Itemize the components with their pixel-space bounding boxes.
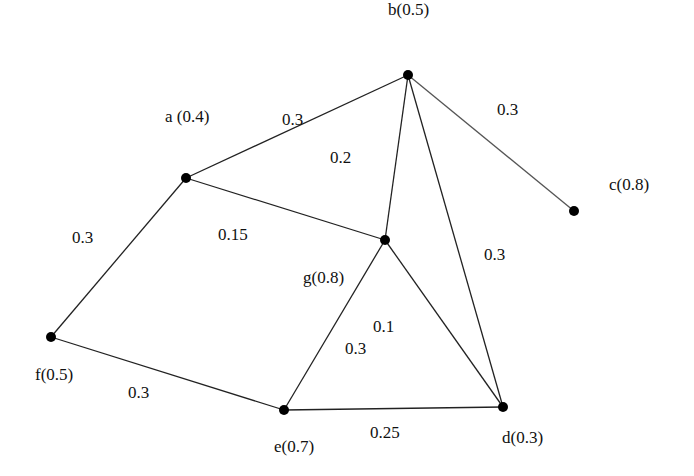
edge-weight-label: 0.2 <box>330 148 351 167</box>
edge-b-g <box>385 75 408 240</box>
edge-weight-label: 0.15 <box>218 225 248 244</box>
edge-weight-label: 0.3 <box>345 339 366 358</box>
node-label-a: a (0.4) <box>165 107 209 126</box>
edge-weight-label: 0.3 <box>72 228 93 247</box>
edge-g-e <box>284 240 385 410</box>
edge-a-f <box>51 178 186 337</box>
node-d <box>498 402 508 412</box>
node-e <box>279 405 289 415</box>
edge-f-e <box>51 337 284 410</box>
edge-weight-label: 0.3 <box>484 245 505 264</box>
node-g <box>380 235 390 245</box>
node-label-e: e(0.7) <box>274 437 314 456</box>
edge-a-g <box>186 178 385 240</box>
edge-weight-label: 0.3 <box>497 100 518 119</box>
edge-weight-label: 0.3 <box>128 383 149 402</box>
node-f <box>46 332 56 342</box>
edge-b-d <box>408 75 503 407</box>
node-label-f: f(0.5) <box>35 365 73 384</box>
node-c <box>569 206 579 216</box>
node-label-c: c(0.8) <box>609 175 649 194</box>
graph-diagram: 0.30.30.150.20.30.30.30.30.10.25 a (0.4)… <box>0 0 694 476</box>
edge-b-c <box>408 75 574 211</box>
node-label-g: g(0.8) <box>303 268 344 287</box>
node-label-d: d(0.3) <box>502 428 543 447</box>
node-b <box>403 70 413 80</box>
edge-g-d <box>385 240 503 407</box>
edge-e-d <box>284 407 503 410</box>
node-label-b: b(0.5) <box>388 0 429 19</box>
edge-weight-label: 0.3 <box>282 110 303 129</box>
node-a <box>181 173 191 183</box>
edge-weight-label: 0.1 <box>373 317 394 336</box>
edges-layer <box>51 75 574 410</box>
edge-weight-label: 0.25 <box>370 423 400 442</box>
